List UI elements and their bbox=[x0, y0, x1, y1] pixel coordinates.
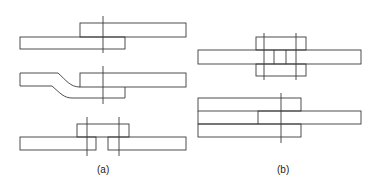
right-plate bbox=[286, 50, 361, 64]
top-plate bbox=[198, 98, 301, 111]
middle-left-outline bbox=[198, 111, 258, 124]
upper-plate bbox=[80, 23, 186, 37]
top-cover-strap bbox=[256, 37, 306, 50]
panel-label-b: (b) bbox=[277, 164, 289, 175]
cover-strap bbox=[77, 124, 129, 137]
single-strap-butt-joint bbox=[20, 117, 186, 156]
joint-diagram bbox=[0, 0, 383, 187]
lower-plate bbox=[20, 37, 125, 49]
joggled-plate bbox=[20, 73, 125, 98]
upper-plate bbox=[80, 73, 186, 87]
lap-joint bbox=[20, 16, 186, 53]
bottom-cover-strap bbox=[256, 64, 306, 76]
double-strap-butt-joint bbox=[198, 33, 361, 80]
middle-plate bbox=[258, 111, 361, 124]
left-plate bbox=[20, 137, 96, 150]
double-lap-joint bbox=[198, 93, 361, 143]
left-plate bbox=[198, 50, 274, 64]
joggled-lap-joint bbox=[20, 66, 186, 104]
bottom-plate bbox=[198, 124, 301, 137]
panel-label-a: (a) bbox=[97, 164, 109, 175]
right-plate bbox=[108, 137, 186, 150]
